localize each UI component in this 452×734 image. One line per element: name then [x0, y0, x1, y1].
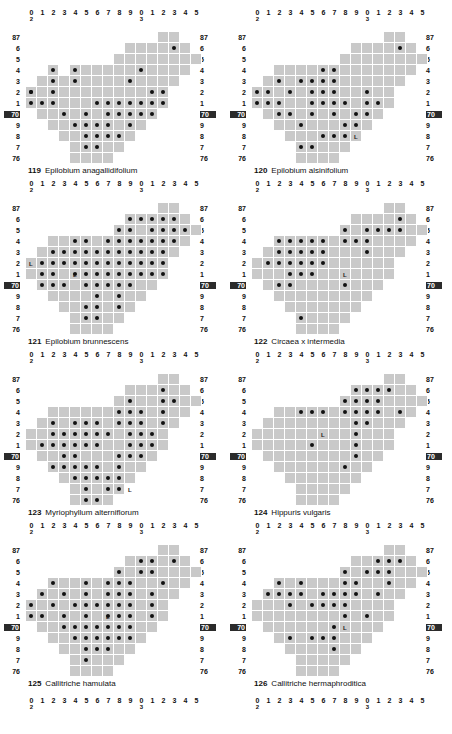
grid-cell [373, 65, 384, 76]
grid-cell [329, 153, 340, 164]
x-axis-tick: 2 [274, 697, 285, 704]
record-dot [40, 614, 44, 618]
grid-cell [92, 484, 103, 495]
y-axis-tick: 87 [200, 547, 216, 554]
grid-cell [147, 451, 158, 462]
grid-cell [307, 451, 318, 462]
grid-cell [285, 429, 296, 440]
grid-cell [307, 313, 318, 324]
grid-cell [114, 65, 125, 76]
y-axis-tick: 5 [230, 398, 246, 405]
record-dot [128, 636, 132, 640]
record-dot [365, 421, 369, 425]
x-axis-bottom: 021234567890312345 [26, 696, 198, 710]
grid-cell [395, 567, 406, 578]
record-dot [62, 432, 66, 436]
record-dot [139, 421, 143, 425]
grid-cell [296, 495, 307, 506]
y-axis-tick: 70 [200, 282, 216, 289]
y-axis-tick: 7 [426, 657, 442, 664]
grid-cell [318, 302, 329, 313]
grid-cell [103, 462, 114, 473]
map-number: 119 [28, 166, 41, 175]
grid-cell [307, 484, 318, 495]
grid-cell [180, 54, 191, 65]
grid-cell [158, 589, 169, 600]
grid-cell [169, 203, 180, 214]
grid-cell [103, 655, 114, 666]
grid-cell [406, 407, 417, 418]
y-axis-tick: 2 [426, 260, 442, 267]
record-dot [288, 239, 292, 243]
grid-cell [373, 247, 384, 258]
record-dot [299, 250, 303, 254]
y-axis-tick: 7 [426, 315, 442, 322]
y-axis-tick: 6 [426, 387, 442, 394]
grid-cell [169, 32, 180, 43]
grid-cell [70, 324, 81, 335]
y-axis-tick: 8 [230, 475, 246, 482]
y-axis-tick: 9 [200, 122, 216, 129]
record-dot [106, 592, 110, 596]
grid-cell [285, 462, 296, 473]
grid-cell [48, 236, 59, 247]
record-dot [387, 570, 391, 574]
y-axis-tick: 3 [426, 249, 442, 256]
grid-cell [37, 451, 48, 462]
grid-cell [147, 418, 158, 429]
record-dot [128, 581, 132, 585]
x-axis-tick: 2 [48, 351, 59, 358]
grid-cell [296, 600, 307, 611]
grid-cell [70, 495, 81, 506]
y-axis-tick: 2 [200, 89, 216, 96]
grid-cell [362, 451, 373, 462]
grid-cell [307, 666, 318, 677]
record-dot [343, 134, 347, 138]
x-axis-tick: 6 [92, 9, 103, 16]
record-dot [183, 228, 187, 232]
grid-cell [340, 473, 351, 484]
y-axis-tick: 1 [426, 100, 442, 107]
grid-cell [318, 462, 329, 473]
grid-cell [169, 545, 180, 556]
y-axis-tick: 70 [200, 453, 216, 460]
grid-cell [351, 247, 362, 258]
distribution-map-panel: 0212345678903123458765432170987768765432… [226, 519, 452, 690]
y-axis-tick: 8 [200, 475, 216, 482]
x-axis-tick: 4 [406, 697, 417, 704]
grid-cell [169, 247, 180, 258]
y-axis-tick: 3 [426, 78, 442, 85]
grid-cell [384, 87, 395, 98]
y-axis-left: 876543217098776 [4, 374, 20, 506]
grid-cell [307, 418, 318, 429]
record-dot [266, 90, 270, 94]
grid-cell [147, 76, 158, 87]
record-dot [172, 228, 176, 232]
y-axis-right: 876543217098776 [426, 32, 442, 164]
grid-cell [263, 600, 274, 611]
y-axis-tick: 87 [230, 34, 246, 41]
record-dot [299, 410, 303, 414]
distribution-map-panel: 0212345678903123458765432170987768765432… [226, 348, 452, 519]
grid-cell [395, 578, 406, 589]
x-axis-tick: 4 [406, 522, 417, 529]
x-axis-tick: 2 [158, 351, 169, 358]
y-axis-tick: 5 [230, 56, 246, 63]
x-axis-tick: 4 [406, 351, 417, 358]
grid-cell [318, 269, 329, 280]
record-dot [299, 272, 303, 276]
x-axis-tick: 4 [70, 9, 81, 16]
record-dot [161, 388, 165, 392]
y-axis-tick: 5 [4, 569, 20, 576]
y-axis-tick: 7 [200, 657, 216, 664]
grid-cell [395, 65, 406, 76]
y-axis-tick: 1 [4, 271, 20, 278]
grid-cell [180, 396, 191, 407]
grid-cell [406, 43, 417, 54]
record-dot [84, 625, 88, 629]
record-dot [95, 272, 99, 276]
grid-cell [59, 87, 70, 98]
record-dot [299, 239, 303, 243]
record-dot [343, 101, 347, 105]
record-dot [95, 250, 99, 254]
